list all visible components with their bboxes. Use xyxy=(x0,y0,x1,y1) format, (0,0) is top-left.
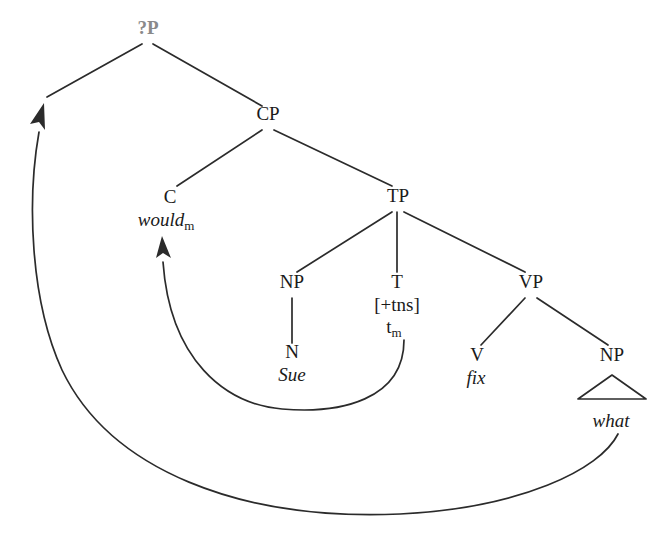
branch-vp-to-v xyxy=(481,298,525,345)
node-tp-label: TP xyxy=(387,185,409,206)
np-object-triangle xyxy=(578,375,646,399)
branch-vp-to-np-object xyxy=(537,298,608,345)
node-t-label: T xyxy=(391,271,403,292)
movement-arrow-wh-movement xyxy=(30,103,618,515)
node-np-object-word: what xyxy=(593,410,631,431)
branch-cp-to-tp xyxy=(274,130,392,186)
node-c-label: C xyxy=(164,186,177,207)
branch-root-to-cp xyxy=(153,44,262,106)
node-cp-label: CP xyxy=(256,103,279,124)
c-word-subscript: m xyxy=(184,218,194,233)
head-movement-arrowhead xyxy=(156,236,171,258)
node-np-object-label: NP xyxy=(600,344,624,365)
node-v-word: fix xyxy=(467,367,487,388)
node-root-label: ?P xyxy=(137,17,159,38)
t-trace-subscript: m xyxy=(392,325,402,340)
node-c-word: wouldm xyxy=(138,209,195,233)
node-t-trace: tm xyxy=(386,316,401,340)
wh-movement-arc xyxy=(33,132,618,515)
c-word-text: would xyxy=(138,209,185,230)
branch-root-to-spec xyxy=(47,44,142,97)
wh-movement-arrowhead xyxy=(30,103,45,130)
node-n-word: Sue xyxy=(278,364,305,385)
node-np-subject-label: NP xyxy=(280,271,304,292)
branch-tp-to-np xyxy=(297,212,392,272)
tree-diagram-svg: ?P CP C wouldm TP NP N Sue T [+tns] tm V… xyxy=(0,0,661,534)
node-t-feature: [+tns] xyxy=(374,294,420,315)
tree-branches xyxy=(47,44,608,345)
syntax-tree-figure: ?P CP C wouldm TP NP N Sue T [+tns] tm V… xyxy=(0,0,661,534)
branch-cp-to-c xyxy=(177,130,262,186)
branch-tp-to-vp xyxy=(404,212,525,272)
node-vp-label: VP xyxy=(519,271,543,292)
node-v-label: V xyxy=(470,344,484,365)
node-n-subject-label: N xyxy=(285,341,299,362)
